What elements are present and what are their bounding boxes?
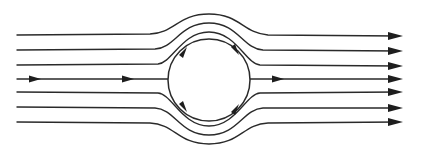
arrow-right-icon (388, 75, 403, 83)
streamline-canvas (0, 0, 421, 155)
arrow-right-icon (388, 62, 403, 70)
cylinder (168, 39, 250, 121)
arrow-right-icon (29, 76, 41, 83)
arrow-right-icon (388, 47, 403, 55)
arrow-right-icon (388, 118, 403, 126)
arrow-right-icon (272, 76, 284, 83)
flow-diagram: Flow streamlines around a circular cylin… (0, 0, 421, 155)
arrow-right-icon (388, 88, 403, 96)
arrow-right-icon (388, 104, 403, 112)
arrow-right-icon (122, 76, 134, 83)
arrow-right-icon (388, 32, 403, 40)
